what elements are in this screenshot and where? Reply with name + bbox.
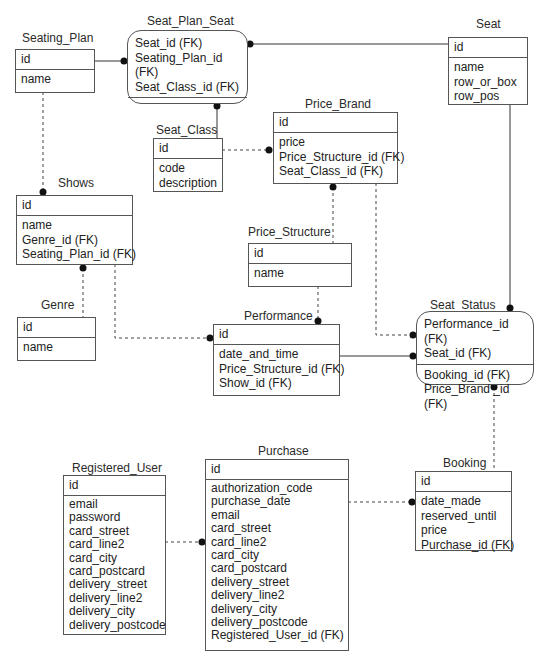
attribute: date_and_time <box>219 347 334 362</box>
entity-title: Shows <box>58 176 94 190</box>
attribute: purchase_date <box>211 495 343 508</box>
attribute: email <box>211 509 343 522</box>
attribute-list: name <box>16 70 94 89</box>
entity-title: Registered_User <box>72 461 162 475</box>
entity-title: Seating_Plan <box>22 31 93 45</box>
attribute: card_postcard <box>211 562 343 575</box>
entity-title: Performance <box>244 309 313 323</box>
attribute: delivery_postcode <box>69 619 160 632</box>
attribute: password <box>69 511 160 524</box>
entity-title: Price_Structure <box>248 225 331 239</box>
attribute: Performance_id (FK) <box>424 317 526 346</box>
attribute-list: date_and_time Price_Structure_id (FK) Sh… <box>214 345 339 393</box>
key-attribute-list: Performance_id (FK) Seat_id (FK) <box>417 312 533 365</box>
attribute: name <box>254 266 346 281</box>
attribute: delivery_street <box>69 578 160 591</box>
entity-box: id name <box>17 317 96 361</box>
attribute: Seating_Plan_id (FK) <box>135 51 240 80</box>
attribute: name <box>454 60 522 75</box>
attribute: Seat_id (FK) <box>135 36 240 51</box>
entity-title: Booking <box>443 456 486 470</box>
primary-key: id <box>416 472 511 492</box>
attribute: Price_Structure_id (FK) <box>279 150 392 165</box>
entity-box: Performance_id (FK) Seat_id (FK) Booking… <box>416 311 534 385</box>
entity-box: id name <box>248 243 352 287</box>
attribute: name <box>21 72 89 87</box>
attribute: delivery_city <box>69 605 160 618</box>
attribute: Seating_Plan_id (FK) <box>22 247 127 262</box>
attribute: price <box>279 135 392 150</box>
attribute: date_made <box>421 494 506 509</box>
attribute: name <box>22 218 127 233</box>
primary-key: id <box>17 196 132 216</box>
attribute: name <box>23 340 90 355</box>
entity-box: id name Genre_id (FK) Seating_Plan_id (F… <box>16 195 133 265</box>
attribute: delivery_street <box>211 576 343 589</box>
attribute: Seat_Class_id (FK) <box>279 164 392 179</box>
entity-title: Seat_Status <box>430 298 495 312</box>
attribute-list: code description <box>154 159 222 192</box>
attribute: delivery_line2 <box>69 592 160 605</box>
primary-key: id <box>18 318 95 338</box>
entity-box: id price Price_Structure_id (FK) Seat_Cl… <box>273 112 398 184</box>
attribute: Genre_id (FK) <box>22 233 127 248</box>
primary-key: id <box>274 113 397 133</box>
attribute: card_street <box>211 522 343 535</box>
attribute-list: email password card_street card_line2 ca… <box>64 496 165 634</box>
attribute: Price_Brand _id (FK) <box>424 382 526 411</box>
primary-key: id <box>214 325 339 345</box>
primary-key: id <box>449 38 527 58</box>
attribute-list: name <box>249 264 351 283</box>
attribute-list: authorization_code purchase_date email c… <box>206 480 348 645</box>
entity-box: id name row_or_box row_pos <box>448 37 528 105</box>
entity-title: Seat_Class <box>156 123 217 137</box>
primary-key: id <box>249 244 351 264</box>
attribute-list: Booking_id (FK) Price_Brand _id (FK) <box>417 365 533 415</box>
entity-box: id email password card_street card_line2… <box>63 475 166 635</box>
attribute: Seat_id (FK) <box>424 346 526 361</box>
attribute: email <box>69 498 160 511</box>
attribute: price <box>421 523 506 538</box>
attribute-list: name <box>18 338 95 357</box>
attribute: card_city <box>69 552 160 565</box>
attribute: Booking_id (FK) <box>424 368 526 383</box>
attribute: Registered_User_id (FK) <box>211 629 343 642</box>
primary-key: id <box>16 50 94 70</box>
attribute: Seat_Class_id (FK) <box>135 80 240 95</box>
attribute: row_pos <box>454 89 522 104</box>
attribute-list: name Genre_id (FK) Seating_Plan_id (FK) <box>17 216 132 264</box>
entity-box: id date_made reserved_until price Purcha… <box>415 471 512 551</box>
attribute: delivery_line2 <box>211 589 343 602</box>
attribute: card_line2 <box>211 536 343 549</box>
entity-title: Genre <box>41 298 74 312</box>
entity-box: Seat_id (FK) Seating_Plan_id (FK) Seat_C… <box>127 30 248 104</box>
key-attribute-list: Seat_id (FK) Seating_Plan_id (FK) Seat_C… <box>128 31 247 98</box>
attribute: reserved_until <box>421 509 506 524</box>
entity-box: id code description <box>153 138 223 192</box>
attribute: description <box>159 176 217 191</box>
attribute-list: name row_or_box row_pos <box>449 58 527 106</box>
entity-box: id authorization_code purchase_date emai… <box>205 459 349 651</box>
entity-box: id date_and_time Price_Structure_id (FK)… <box>213 324 340 396</box>
attribute: card_city <box>211 549 343 562</box>
primary-key: id <box>206 460 348 480</box>
entity-title: Price_Brand <box>305 97 371 111</box>
attribute: card_line2 <box>69 538 160 551</box>
attribute: delivery_city <box>211 603 343 616</box>
primary-key: id <box>64 476 165 496</box>
entity-title: Seat_Plan_Seat <box>147 14 234 28</box>
attribute: card_postcard <box>69 565 160 578</box>
attribute-list: price Price_Structure_id (FK) Seat_Class… <box>274 133 397 181</box>
entity-box: id name <box>15 49 95 93</box>
primary-key: id <box>154 139 222 159</box>
attribute: Price_Structure_id (FK) <box>219 362 334 377</box>
attribute: row_or_box <box>454 75 522 90</box>
attribute: card_street <box>69 525 160 538</box>
attribute: authorization_code <box>211 482 343 495</box>
entity-title: Seat <box>476 17 501 31</box>
attribute: Show_id (FK) <box>219 376 334 391</box>
entity-title: Purchase <box>258 444 309 458</box>
attribute: Purchase_id (FK) <box>421 538 506 553</box>
attribute: code <box>159 161 217 176</box>
attribute: delivery_postcode <box>211 616 343 629</box>
